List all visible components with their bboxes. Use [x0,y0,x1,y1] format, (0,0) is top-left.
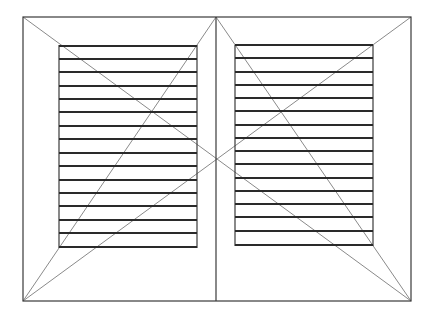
diagram-svg [0,0,432,318]
construction-line [216,17,411,301]
shutter-diagram [0,0,432,318]
